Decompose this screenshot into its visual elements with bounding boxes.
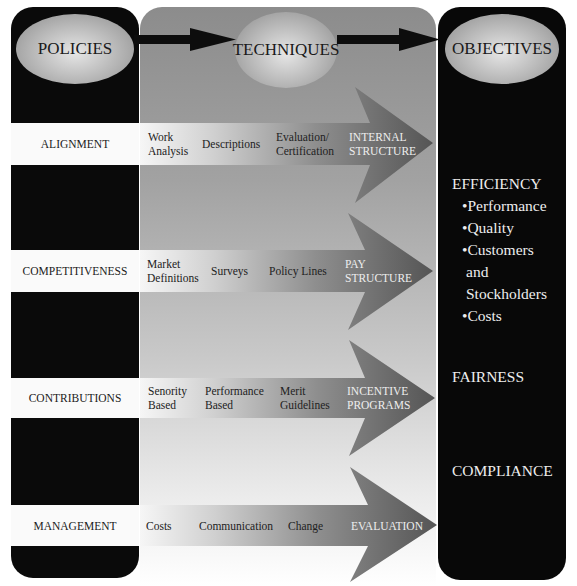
technique-senority-based: SenorityBased [148, 384, 187, 412]
technique-policy-lines: Policy Lines [269, 264, 327, 278]
header-arrow-techniques-to-objectives [337, 28, 440, 51]
technique-work-analysis: WorkAnalysis [148, 130, 188, 158]
technique-communication: Communication [199, 519, 273, 533]
objective-item: Stockholders [466, 283, 547, 305]
objective-item: •Quality [462, 217, 514, 239]
technique-merit-guidelines: MeritGuidelines [280, 384, 330, 412]
technique-costs: Costs [146, 519, 172, 533]
header-label: TECHNIQUES [233, 40, 340, 60]
technique-descriptions: Descriptions [202, 137, 260, 151]
header-arrow-policies-to-techniques [134, 28, 236, 51]
objective-efficiency: EFFICIENCY [452, 173, 542, 195]
outcome-incentive-programs: INCENTIVEPROGRAMS [347, 384, 410, 412]
technique-surveys: Surveys [211, 264, 248, 278]
outcome-pay-structure: PAYSTRUCTURE [345, 257, 412, 285]
technique-evaluation-certification: Evaluation/Certification [276, 130, 334, 158]
objective-item: •Performance [462, 195, 547, 217]
header-techniques: TECHNIQUES [235, 12, 337, 88]
technique-performance-based: PerformanceBased [205, 384, 264, 412]
header-policies: POLICIES [16, 14, 134, 84]
objective-item: •Costs [462, 305, 502, 327]
header-objectives: OBJECTIVES [445, 14, 559, 84]
technique-change: Change [288, 519, 323, 533]
technique-market-definitions: MarketDefinitions [147, 257, 199, 285]
header-label: POLICIES [38, 39, 113, 59]
outcome-internal-structure: INTERNALSTRUCTURE [349, 130, 416, 158]
objective-fairness: FAIRNESS [452, 366, 524, 388]
objective-item: and [466, 261, 488, 283]
objective-compliance: COMPLIANCE [452, 460, 553, 482]
objective-item: •Customers [462, 239, 534, 261]
outcome-evaluation: EVALUATION [351, 519, 423, 533]
header-label: OBJECTIVES [452, 39, 552, 59]
